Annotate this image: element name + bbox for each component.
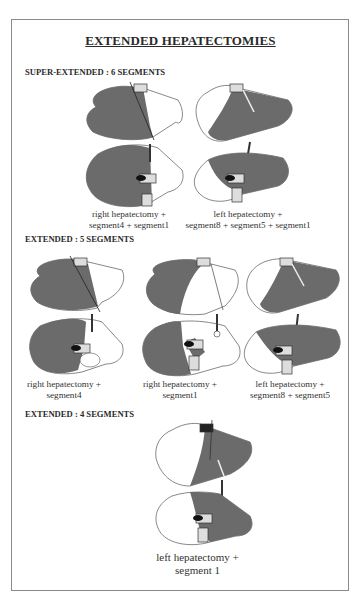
liver-diagram-right-hepatectomy-seg4	[22, 256, 132, 378]
caption-left-hepatectomy-seg1: left hepatectomy + segment 1	[140, 551, 255, 576]
caption-right-hepatectomy-seg4-seg1: right hepatectomy + segment4 + segment1	[64, 209, 194, 230]
caption-right-hepatectomy-seg4: right hepatectomy + segment4	[14, 379, 114, 400]
section-heading-extended-5: EXTENDED : 5 SEGMENTS	[25, 234, 134, 244]
caption-right-hepatectomy-seg1: right hepatectomy + segment1	[130, 379, 230, 400]
liver-diagram-right-hepatectomy-seg1	[135, 256, 245, 378]
caption-left-hepatectomy-seg8-seg5: left hepatectomy + segment8 + segment5	[238, 379, 342, 400]
caption-left-hepatectomy-seg8-seg5-seg1: left hepatectomy + segment8 + segment5 +…	[178, 209, 318, 230]
liver-diagram-right-hepatectomy-seg4-seg1	[78, 82, 188, 212]
liver-diagram-left-hepatectomy-seg8-seg5-seg1	[188, 82, 303, 212]
page-title: EXTENDED HEPATECTOMIES	[0, 33, 361, 49]
liver-diagram-left-hepatectomy-seg1	[150, 420, 260, 548]
section-heading-extended-4: EXTENDED : 4 SEGMENTS	[25, 409, 134, 419]
liver-diagram-left-hepatectomy-seg8-seg5	[240, 256, 350, 378]
section-heading-super-extended: SUPER-EXTENDED : 6 SEGMENTS	[25, 67, 165, 77]
